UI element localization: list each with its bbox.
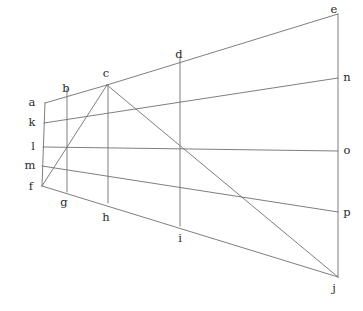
segment-diagonal-c-j — [107, 85, 338, 277]
vertex-label-p: p — [343, 205, 350, 219]
segment-top-rail-a-c — [45, 85, 107, 103]
vertex-label-l: l — [31, 139, 35, 153]
segment-top-rail-c-e — [107, 14, 338, 85]
segment-left-edge-a-f — [42, 103, 45, 186]
vertex-label-c: c — [103, 66, 109, 80]
vertex-label-n: n — [343, 70, 351, 84]
vertex-label-f: f — [29, 179, 34, 193]
segment-rail-m-p — [42, 166, 338, 212]
vertex-label-a: a — [29, 95, 36, 109]
segment-bottom-rail-f-j — [42, 186, 338, 277]
vertex-label-i: i — [178, 231, 182, 245]
vertex-label-d: d — [175, 47, 183, 61]
vertex-label-o: o — [344, 143, 351, 157]
vertex-label-e: e — [331, 2, 338, 16]
segment-rail-k-n — [44, 78, 338, 123]
vertex-label-j: j — [330, 281, 336, 295]
geometric-diagram: a b c d e f g h i j k l m n o p — [0, 0, 363, 311]
vertex-label-m: m — [25, 158, 36, 172]
vertex-label-g: g — [60, 195, 68, 209]
vertex-label-k: k — [29, 115, 37, 129]
segment-rail-l-o — [43, 147, 338, 151]
vertex-label-b: b — [62, 81, 69, 95]
vertex-label-h: h — [102, 210, 110, 224]
figure-canvas: a b c d e f g h i j k l m n o p — [0, 0, 363, 311]
